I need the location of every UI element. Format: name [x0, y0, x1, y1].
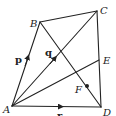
label-C: C — [100, 5, 108, 16]
quadrilateral-vector-diagram: A B C D E F p q r — [0, 0, 116, 116]
label-F: F — [74, 84, 83, 95]
vector-q-arrow-icon — [50, 58, 55, 64]
label-B: B — [29, 18, 37, 29]
label-vector-r: r — [57, 110, 63, 116]
label-E: E — [102, 55, 111, 66]
vector-p-arrow-icon — [25, 57, 28, 66]
point-F-dot — [85, 84, 89, 88]
label-vector-q: q — [45, 47, 52, 58]
label-A: A — [2, 104, 10, 115]
label-D: D — [102, 107, 111, 116]
diagram-canvas: A B C D E F p q r — [0, 0, 116, 116]
label-vector-p: p — [15, 54, 22, 65]
segment-CD — [97, 11, 101, 107]
